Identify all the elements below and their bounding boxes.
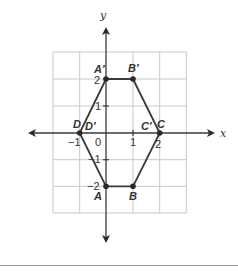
y-tick-label-2: 2 — [94, 74, 100, 86]
label-d: D — [73, 118, 81, 130]
point-b — [130, 184, 136, 190]
label-a: A — [93, 190, 102, 202]
label-b: B — [129, 190, 137, 202]
coordinate-plane-figure: x y 0 −1 1 2 2 1 −1 −2 A B C D A′ B — [0, 0, 238, 274]
point-b-prime — [130, 76, 136, 82]
label-c: C — [157, 118, 166, 130]
label-b-prime: B′ — [128, 62, 140, 74]
x-tick-label-neg1: −1 — [68, 136, 81, 148]
label-a-prime: A′ — [93, 63, 106, 75]
origin-label: 0 — [95, 136, 101, 148]
label-c-prime: C′ — [141, 120, 153, 132]
y-axis-label: y — [99, 9, 107, 22]
y-tick-label-1: 1 — [95, 100, 101, 112]
x-axis-label: x — [220, 127, 227, 140]
bottom-divider — [0, 265, 238, 266]
point-a-prime — [103, 76, 109, 82]
axes: x y — [30, 9, 227, 241]
label-d-prime: D′ — [85, 120, 97, 132]
point-a — [103, 184, 109, 190]
point-d — [77, 130, 83, 136]
point-c — [157, 130, 163, 136]
x-tick-label-1: 1 — [130, 136, 136, 148]
